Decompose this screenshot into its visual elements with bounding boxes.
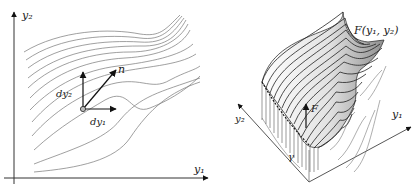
diagram-canvas: y₂ y₁ n dy₂ dy₁ — [0, 0, 418, 193]
contour-lines — [24, 15, 200, 172]
surface-label: F(y₁, y₂) — [353, 24, 398, 37]
surface-plot: F(y₁, y₂) y₁ y₂ γ F — [234, 12, 411, 182]
dy2-label: dy₂ — [56, 88, 72, 99]
y1-axis-label-3d: y₁ — [391, 108, 403, 121]
y2-axis-label-3d: y₂ — [234, 113, 245, 124]
dy1-label: dy₁ — [90, 116, 106, 127]
normal-vector-label: n — [118, 63, 125, 76]
force-label: F — [310, 103, 319, 114]
y2-axis-label: y₂ — [21, 9, 33, 22]
y1-axis-label: y₁ — [193, 163, 205, 176]
contour-plot: y₂ y₁ n dy₂ dy₁ — [4, 9, 208, 184]
gamma-label: γ — [288, 151, 294, 162]
origin-point — [80, 106, 85, 111]
